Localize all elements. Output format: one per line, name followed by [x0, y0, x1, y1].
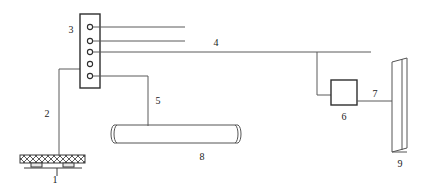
platform-foot-right: [63, 163, 74, 167]
port-2: [87, 38, 92, 43]
diagram-canvas: 1 2 3 4 5 6 7 8 9: [0, 0, 425, 186]
port-4: [87, 61, 92, 66]
connector-line-5-path: [93, 76, 148, 126]
label-9: 9: [398, 158, 403, 169]
connector-line-5-group: [93, 76, 148, 126]
vertical-panel-outer: [392, 58, 407, 152]
control-box-group: [331, 80, 357, 105]
hatched-platform-bar: [20, 155, 85, 163]
hatched-platform-group: [20, 155, 85, 176]
cylinder-right-cap-inner: [235, 125, 238, 143]
label-8: 8: [200, 151, 205, 162]
vertical-panel-group: [392, 58, 407, 152]
cylinder-left-cap-inner: [114, 125, 117, 143]
cylinder-tube-group: [111, 125, 241, 143]
main-signal-line-group: [93, 52, 371, 95]
port-3: [87, 49, 92, 54]
label-4: 4: [214, 37, 219, 48]
label-1: 1: [53, 174, 58, 185]
technical-diagram: 1 2 3 4 5 6 7 8 9: [0, 0, 425, 186]
label-3: 3: [69, 24, 74, 35]
upper-signal-lines-group: [93, 27, 185, 41]
port-panel-group: [80, 14, 100, 88]
platform-foot-left: [31, 163, 42, 167]
port-1: [87, 24, 92, 29]
label-6: 6: [342, 111, 347, 122]
label-2: 2: [45, 108, 50, 119]
port-5: [87, 73, 92, 78]
label-7: 7: [373, 88, 378, 99]
control-box-body: [331, 80, 357, 105]
label-5: 5: [156, 95, 161, 106]
main-signal-line-branch: [317, 52, 331, 95]
